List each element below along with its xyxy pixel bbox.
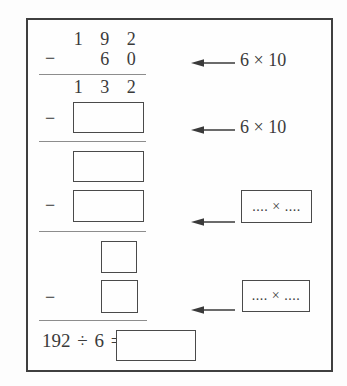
hint-box-text: .... × ....	[252, 199, 300, 215]
subtrahend-box-3[interactable]	[101, 280, 138, 313]
minuend-digit: 1	[65, 29, 92, 49]
hint-box-2[interactable]: .... × ....	[242, 280, 310, 312]
minus-sign-2: −	[42, 108, 58, 128]
minus-sign-4: −	[42, 287, 58, 307]
minuend-row: 1 9 2	[65, 29, 145, 49]
minus-sign-1: −	[42, 48, 58, 68]
left-arrow-icon-3	[191, 216, 235, 228]
hint-label-2: 6 × 10	[240, 118, 286, 137]
minuend-digit: 2	[118, 29, 145, 49]
hint-box-1[interactable]: .... × ....	[241, 190, 312, 223]
difference-digit: 1	[65, 77, 92, 97]
difference-digit: 3	[92, 77, 119, 97]
minus-sign-3: −	[42, 195, 58, 215]
subtrahend-digit: 0	[118, 49, 145, 69]
subtrahend-box-2[interactable]	[73, 190, 144, 222]
subtrahend-row: 6 0	[92, 49, 145, 69]
quotient-answer-box[interactable]	[116, 330, 196, 361]
difference-box-1[interactable]	[73, 151, 144, 182]
difference-digit: 2	[118, 77, 145, 97]
difference-box-2[interactable]	[101, 241, 137, 273]
final-equation-label: 192 ÷ 6 =	[42, 331, 121, 351]
separator-line-4	[39, 320, 147, 321]
left-arrow-icon-4	[191, 304, 235, 316]
left-arrow-icon-2	[191, 124, 235, 136]
difference-row: 1 3 2	[65, 77, 145, 97]
division-worksheet: 1 9 2 − 6 0 1 3 2 − − − 192 ÷ 6 = 6 × 10	[0, 0, 347, 386]
separator-line-2	[39, 141, 146, 142]
hint-label-1: 6 × 10	[240, 51, 286, 70]
left-arrow-icon-1	[191, 57, 235, 69]
minuend-digit: 9	[92, 29, 119, 49]
separator-line-3	[39, 231, 146, 232]
separator-line-1	[39, 74, 146, 75]
subtrahend-digit: 6	[92, 49, 119, 69]
hint-box-text: .... × ....	[252, 288, 300, 304]
subtrahend-box-1[interactable]	[73, 102, 144, 133]
